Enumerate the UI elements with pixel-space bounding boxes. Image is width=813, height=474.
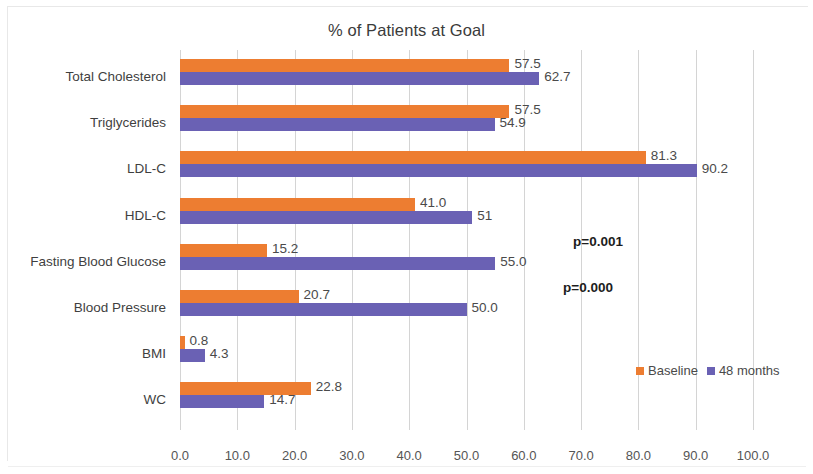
x-axis-tick-label: 70.0 xyxy=(551,448,611,463)
x-axis-tick-label: 30.0 xyxy=(322,448,382,463)
category-label: BMI xyxy=(0,346,166,361)
p-value-annotation: p=0.001 xyxy=(573,234,623,249)
category-label: WC xyxy=(0,392,166,407)
bar-baseline xyxy=(180,244,267,257)
legend-entry-baseline: Baseline xyxy=(636,363,698,378)
value-label: 51 xyxy=(477,208,492,223)
chart-legend: Baseline 48 months xyxy=(636,363,780,378)
bar-chart: % of Patients at Goal 0.010.020.030.040.… xyxy=(0,0,813,474)
x-axis-tick-label: 10.0 xyxy=(207,448,267,463)
x-axis-tick-label: 20.0 xyxy=(265,448,325,463)
value-label: 4.3 xyxy=(210,346,229,361)
category-label: Total Cholesterol xyxy=(0,69,166,84)
x-axis-tick-label: 80.0 xyxy=(608,448,668,463)
p-value-annotation: p=0.000 xyxy=(563,280,613,295)
value-label: 90.2 xyxy=(702,161,728,176)
bar-48-months xyxy=(180,211,472,224)
bar-48-months xyxy=(180,349,205,362)
x-axis-tick-label: 60.0 xyxy=(494,448,554,463)
value-label: 15.2 xyxy=(272,241,298,256)
category-label: Triglycerides xyxy=(0,115,166,130)
x-axis-tick-label: 40.0 xyxy=(379,448,439,463)
legend-swatch-48-months xyxy=(707,367,715,375)
bar-baseline xyxy=(180,336,185,349)
value-label: 55.0 xyxy=(500,254,526,269)
bar-baseline xyxy=(180,59,509,72)
value-label: 54.9 xyxy=(500,115,526,130)
bar-baseline xyxy=(180,198,415,211)
bar-48-months xyxy=(180,303,467,316)
bar-baseline xyxy=(180,290,299,303)
value-label: 57.5 xyxy=(514,56,540,71)
x-axis-tick-label: 100.0 xyxy=(723,448,783,463)
chart-title: % of Patients at Goal xyxy=(0,21,813,40)
legend-swatch-baseline xyxy=(636,367,644,375)
x-axis-tick-label: 50.0 xyxy=(437,448,497,463)
value-label: 50.0 xyxy=(472,300,498,315)
bar-48-months xyxy=(180,72,539,85)
legend-label-baseline: Baseline xyxy=(648,363,698,378)
value-label: 20.7 xyxy=(304,287,330,302)
category-label: LDL-C xyxy=(0,161,166,176)
x-axis-tick-label: 90.0 xyxy=(666,448,726,463)
value-label: 22.8 xyxy=(316,379,342,394)
bar-baseline xyxy=(180,151,646,164)
bar-48-months xyxy=(180,164,697,177)
legend-entry-48-months: 48 months xyxy=(707,363,780,378)
value-label: 41.0 xyxy=(420,195,446,210)
bar-48-months xyxy=(180,395,264,408)
value-label: 81.3 xyxy=(651,148,677,163)
bar-48-months xyxy=(180,257,495,270)
bar-baseline xyxy=(180,105,509,118)
chart-screenshot: % of Patients at Goal 0.010.020.030.040.… xyxy=(0,0,813,474)
legend-label-48-months: 48 months xyxy=(719,363,780,378)
bar-48-months xyxy=(180,118,495,131)
category-label: Fasting Blood Glucose xyxy=(0,254,166,269)
category-label: Blood Pressure xyxy=(0,300,166,315)
value-label: 14.7 xyxy=(269,392,295,407)
category-label: HDL-C xyxy=(0,208,166,223)
value-label: 0.8 xyxy=(190,333,209,348)
value-label: 62.7 xyxy=(544,69,570,84)
x-axis-tick-label: 0.0 xyxy=(150,448,210,463)
